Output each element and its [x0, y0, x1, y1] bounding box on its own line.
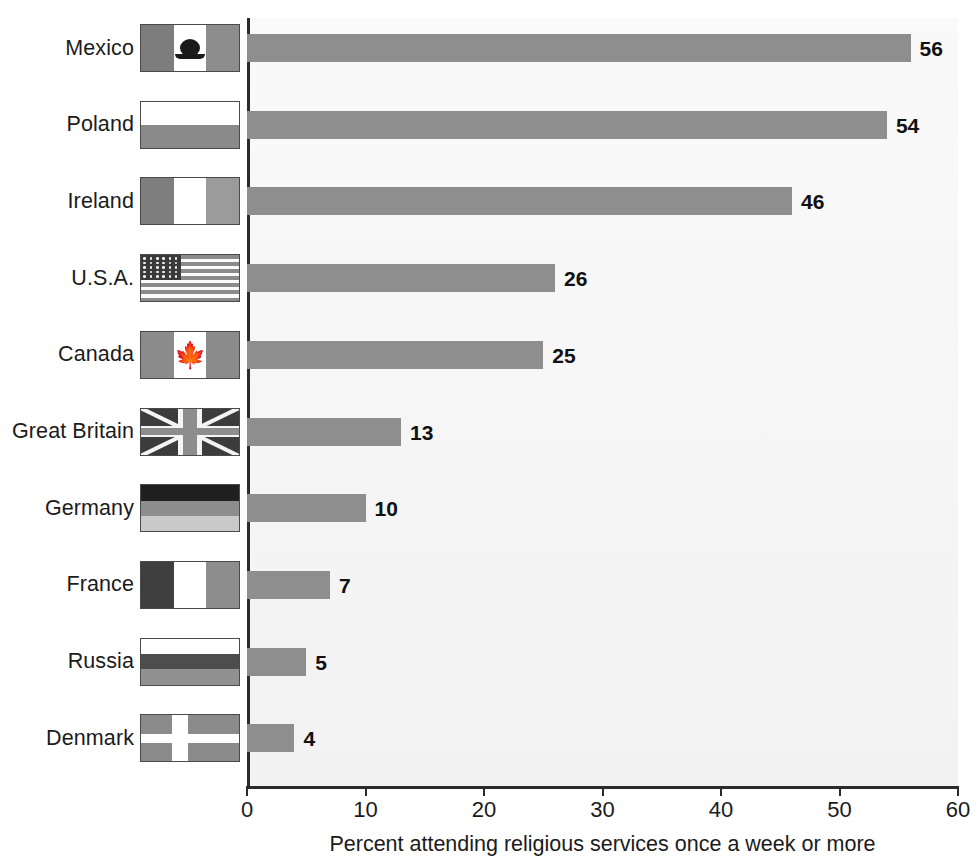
- category-row: Canada🍁: [0, 331, 240, 379]
- bar-value-label: 25: [552, 344, 575, 368]
- ireland-flag: [140, 177, 240, 225]
- russia-flag: [140, 638, 240, 686]
- x-tick-0: [246, 786, 248, 796]
- category-row: Poland: [0, 101, 240, 149]
- category-row: Denmark: [0, 714, 240, 762]
- denmark-flag: [140, 714, 240, 762]
- category-label-canada: Canada: [58, 342, 140, 367]
- bar-denmark: [247, 724, 294, 752]
- bar-great-britain: [247, 418, 401, 446]
- bar-value-label: 54: [896, 114, 919, 138]
- bar-ireland: [247, 187, 792, 215]
- category-label-ireland: Ireland: [68, 189, 140, 214]
- x-tick-20: [483, 786, 485, 796]
- bar-chart: 0102030405060 MexicoPolandIrelandU.S.A.C…: [0, 0, 979, 867]
- bar-value-label: 26: [564, 267, 587, 291]
- category-label-poland: Poland: [66, 112, 140, 137]
- poland-flag: [140, 101, 240, 149]
- x-tick-label-0: 0: [241, 797, 253, 823]
- bar-u-s-a: [247, 264, 555, 292]
- category-label-mexico: Mexico: [65, 36, 140, 61]
- x-tick-label-10: 10: [353, 797, 377, 823]
- category-row: Great Britain: [0, 408, 240, 456]
- category-label-germany: Germany: [45, 496, 140, 521]
- category-row: Germany: [0, 484, 240, 532]
- category-row: Mexico: [0, 24, 240, 72]
- category-row: France: [0, 561, 240, 609]
- category-label-france: France: [66, 572, 140, 597]
- canada-flag: 🍁: [140, 331, 240, 379]
- bar-value-label: 7: [339, 574, 351, 598]
- bar-value-label: 4: [303, 727, 315, 751]
- bar-value-label: 46: [801, 190, 824, 214]
- bar-value-label: 13: [410, 421, 433, 445]
- x-tick-label-40: 40: [709, 797, 733, 823]
- x-tick-30: [602, 786, 604, 796]
- bar-france: [247, 571, 330, 599]
- bar-russia: [247, 648, 306, 676]
- great-britain-flag: [140, 408, 240, 456]
- category-label-great-britain: Great Britain: [12, 419, 140, 444]
- category-label-russia: Russia: [68, 649, 140, 674]
- usa-flag: [140, 254, 240, 302]
- category-label-u-s-a: U.S.A.: [71, 266, 140, 291]
- bar-value-label: 5: [315, 651, 327, 675]
- category-row: Ireland: [0, 177, 240, 225]
- x-tick-label-50: 50: [827, 797, 851, 823]
- x-axis-title: Percent attending religious services onc…: [247, 832, 958, 857]
- bar-value-label: 10: [375, 497, 398, 521]
- x-tick-10: [365, 786, 367, 796]
- bar-poland: [247, 111, 887, 139]
- x-tick-label-60: 60: [946, 797, 970, 823]
- bar-value-label: 56: [920, 37, 943, 61]
- x-tick-40: [720, 786, 722, 796]
- mexico-flag: [140, 24, 240, 72]
- x-tick-label-30: 30: [590, 797, 614, 823]
- category-row: Russia: [0, 638, 240, 686]
- france-flag: [140, 561, 240, 609]
- bar-germany: [247, 494, 366, 522]
- germany-flag: [140, 484, 240, 532]
- x-tick-label-20: 20: [472, 797, 496, 823]
- category-label-denmark: Denmark: [46, 726, 140, 751]
- bar-canada: [247, 341, 543, 369]
- category-row: U.S.A.: [0, 254, 240, 302]
- x-tick-50: [839, 786, 841, 796]
- bar-mexico: [247, 34, 911, 62]
- x-tick-60: [957, 786, 959, 796]
